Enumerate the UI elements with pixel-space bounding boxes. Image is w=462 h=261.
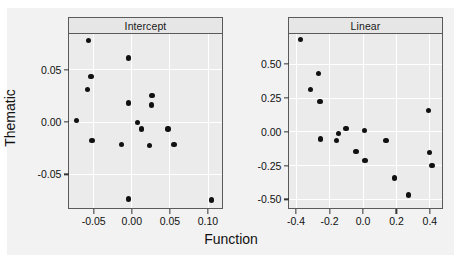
panel-linear: Linear — [288, 17, 443, 209]
data-point — [336, 131, 341, 136]
y-tick-label: 0.00 — [227, 126, 281, 138]
data-point — [149, 93, 154, 98]
y-tick-label: -0.50 — [227, 193, 281, 205]
y-tick-mark — [64, 121, 69, 122]
x-tick-label: 0.10 — [198, 215, 218, 227]
x-tick-mark — [131, 209, 132, 214]
panel-title-linear: Linear — [288, 17, 443, 34]
data-point — [353, 149, 358, 154]
x-tick-label: 0.4 — [423, 215, 438, 227]
x-axis-title: Function — [0, 231, 462, 247]
data-point — [171, 142, 176, 147]
x-tick-mark — [93, 209, 94, 214]
gridline-vertical — [429, 34, 430, 208]
x-tick-mark — [169, 209, 170, 214]
gridline-vertical — [363, 34, 364, 208]
y-tick-mark — [284, 131, 289, 132]
data-point — [317, 99, 322, 104]
x-tick-label: 0.05 — [160, 215, 180, 227]
y-tick-label: -0.05 — [7, 168, 61, 180]
x-tick-mark — [396, 209, 397, 214]
data-point — [126, 196, 131, 201]
data-point — [135, 120, 140, 125]
y-tick-label: 0.25 — [227, 92, 281, 104]
data-point — [165, 126, 170, 131]
x-tick-label: -0.05 — [82, 215, 106, 227]
data-point — [383, 138, 388, 143]
data-point — [406, 192, 411, 197]
data-point — [85, 87, 90, 92]
data-point — [426, 108, 431, 113]
x-tick-label: -0.2 — [320, 215, 338, 227]
data-point — [89, 138, 94, 143]
data-point — [334, 138, 339, 143]
x-tick-label: 0.00 — [122, 215, 142, 227]
plot-area-intercept — [68, 33, 223, 209]
x-tick-mark — [429, 209, 430, 214]
scatter-plot-figure: Thematic Function Intercept 0.050.00-0.0… — [0, 0, 462, 261]
data-point — [126, 55, 131, 60]
data-point — [316, 71, 321, 76]
data-point — [362, 128, 367, 133]
data-point — [209, 197, 214, 202]
data-point — [119, 142, 124, 147]
page-margin-right — [454, 0, 462, 261]
y-tick-label: 0.50 — [227, 58, 281, 70]
data-point — [362, 158, 367, 163]
gridline-horizontal — [69, 174, 222, 175]
y-tick-label: 0.05 — [7, 64, 61, 76]
y-tick-mark — [64, 69, 69, 70]
x-tick-label: -0.4 — [287, 215, 305, 227]
data-point — [308, 87, 313, 92]
gridline-vertical — [396, 34, 397, 208]
data-point — [318, 136, 323, 141]
y-tick-mark — [284, 97, 289, 98]
gridline-horizontal — [69, 69, 222, 70]
panel-title-intercept: Intercept — [68, 17, 223, 34]
y-tick-mark — [64, 174, 69, 175]
data-point — [427, 150, 432, 155]
data-point — [343, 126, 348, 131]
data-point — [149, 102, 154, 107]
page-margin-top — [0, 0, 462, 8]
gridline-horizontal — [289, 165, 442, 166]
data-point — [86, 38, 91, 43]
y-tick-label: -0.25 — [227, 160, 281, 172]
x-tick-mark — [329, 209, 330, 214]
data-point — [392, 175, 397, 180]
y-tick-mark — [284, 64, 289, 65]
gridline-horizontal — [289, 199, 442, 200]
gridline-vertical — [329, 34, 330, 208]
data-point — [147, 143, 152, 148]
data-point — [139, 126, 144, 131]
gridline-horizontal — [289, 98, 442, 99]
y-tick-mark — [284, 165, 289, 166]
gridline-vertical — [296, 34, 297, 208]
y-tick-mark — [284, 199, 289, 200]
x-tick-mark — [362, 209, 363, 214]
x-tick-label: 0.0 — [356, 215, 371, 227]
data-point — [298, 37, 303, 42]
x-tick-mark — [207, 209, 208, 214]
gridline-horizontal — [289, 64, 442, 65]
y-tick-label: 0.00 — [7, 116, 61, 128]
x-tick-label: 0.2 — [389, 215, 404, 227]
plot-area-linear — [288, 33, 443, 209]
data-point — [429, 163, 434, 168]
page-margin-bottom — [0, 255, 462, 261]
x-tick-mark — [295, 209, 296, 214]
panel-intercept: Intercept — [68, 17, 223, 209]
gridline-horizontal — [69, 122, 222, 123]
data-point — [126, 100, 131, 105]
